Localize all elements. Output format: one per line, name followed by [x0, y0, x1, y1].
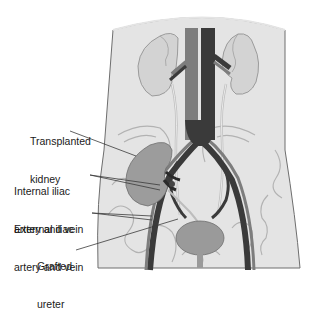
urethra: [197, 254, 203, 268]
label-grafted-ureter: Grafted ureter: [37, 235, 72, 312]
bladder: [176, 221, 224, 255]
